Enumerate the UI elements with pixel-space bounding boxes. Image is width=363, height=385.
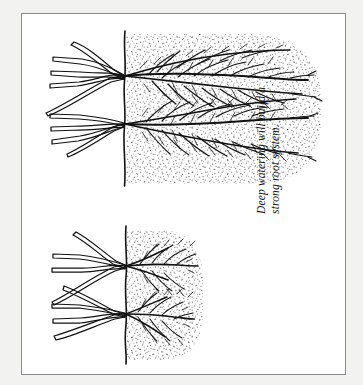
root-system-figure: Deep watering will build a strong root s… [0, 0, 363, 385]
illustration-artwork [22, 14, 345, 374]
ground-line-deep [124, 31, 125, 186]
illustration-frame: Deep watering will build a strong root s… [21, 13, 346, 375]
soil-zone-deep [122, 28, 328, 192]
